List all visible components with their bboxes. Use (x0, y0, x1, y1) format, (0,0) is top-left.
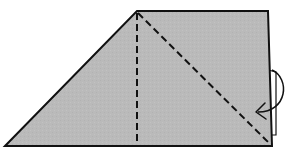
paper-shape (5, 11, 272, 146)
origami-diagram: Trapezoid paper shape with two dashed fo… (0, 0, 287, 151)
fold-diagram-svg (0, 0, 287, 151)
